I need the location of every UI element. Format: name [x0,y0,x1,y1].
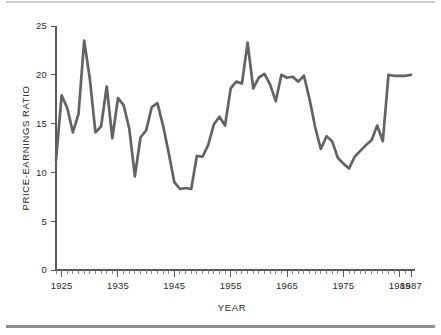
x-tick-label: 1975 [332,280,354,291]
figure-page: 0510152025 19251935194519551965197519851… [0,0,441,335]
price-earnings-ratio-chart: 0510152025 19251935194519551965197519851… [0,0,441,320]
y-axis-ticks [51,26,56,270]
y-tick-label: 25 [36,20,47,31]
x-tick-label: 1955 [220,280,242,291]
x-tick-label: 1925 [51,280,73,291]
x-axis-tick-labels: 19251935194519551965197519851987 [51,280,422,291]
y-axis-tick-labels: 0510152025 [36,20,47,275]
y-tick-label: 10 [36,167,47,178]
chart-svg: 0510152025 19251935194519551965197519851… [0,0,441,320]
y-tick-label: 15 [36,118,47,129]
y-tick-label: 5 [42,216,47,227]
x-axis-minor-ticks [56,270,411,274]
y-tick-label: 20 [36,69,47,80]
x-tick-label: 1965 [276,280,298,291]
y-tick-label: 0 [42,264,47,275]
x-axis: 19251935194519551965197519851987 [51,270,422,291]
x-tick-label: 1945 [163,280,185,291]
bottom-divider-rule [6,325,435,328]
price-earnings-series-line [56,41,411,189]
y-axis: 0510152025 [36,20,56,275]
x-tick-label: 1935 [107,280,129,291]
x-tick-label: 1987 [400,280,422,291]
x-axis-title: YEAR [218,302,246,313]
y-axis-title: PRICE-EARNINGS RATIO [20,86,31,211]
